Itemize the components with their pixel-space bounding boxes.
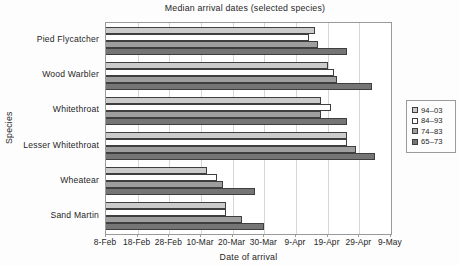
category-label-whitethroat: Whitethroat [0,104,99,114]
bar-whitethroat-84-93 [106,104,331,111]
category-label-lesser-whitethroat: Lesser Whitethroat [0,140,99,150]
gridline [359,23,360,234]
bar-sand-martin-74-83 [106,216,242,223]
bar-wheatear-94-03 [106,167,207,174]
bar-pied-flycatcher-74-83 [106,41,318,48]
gridline [264,23,265,234]
bar-wood-warbler-65-73 [106,83,372,90]
gridline [328,23,329,234]
legend: 94–0384–9374–8365–73 [406,100,456,153]
category-label-pied-flycatcher: Pied Flycatcher [0,34,99,44]
plot-area [105,22,392,235]
bar-whitethroat-94-03 [106,97,321,104]
legend-item-74-83: 74–83 [412,127,455,135]
legend-item-84-93: 84–93 [412,117,455,125]
bar-lesser-whitethroat-94-03 [106,132,347,139]
bar-wood-warbler-94-03 [106,62,328,69]
bar-wheatear-84-93 [106,174,217,181]
gridline [296,23,297,234]
bar-wheatear-74-83 [106,181,223,188]
x-tick-label-9-may: 9-May [368,237,412,247]
bar-pied-flycatcher-65-73 [106,48,347,55]
legend-label-94-03: 94–03 [421,106,443,115]
legend-swatch-84-93 [412,118,418,124]
legend-swatch-94-03 [412,107,418,113]
legend-swatch-74-83 [412,128,418,134]
category-label-wood-warbler: Wood Warbler [0,69,99,79]
bar-wood-warbler-84-93 [106,69,334,76]
bar-sand-martin-94-03 [106,202,226,209]
x-axis-label: Date of arrival [105,252,392,262]
bar-sand-martin-65-73 [106,223,264,230]
bar-pied-flycatcher-94-03 [106,27,315,34]
legend-label-74-83: 74–83 [421,127,443,136]
legend-label-84-93: 84–93 [421,116,443,125]
y-axis-label: Species [4,22,14,233]
bar-lesser-whitethroat-65-73 [106,153,375,160]
bar-wheatear-65-73 [106,188,255,195]
bar-sand-martin-84-93 [106,209,226,216]
bar-whitethroat-65-73 [106,118,347,125]
bar-whitethroat-74-83 [106,111,321,118]
bar-lesser-whitethroat-74-83 [106,146,356,153]
category-label-wheatear: Wheatear [0,175,99,185]
bar-lesser-whitethroat-84-93 [106,139,347,146]
legend-item-94-03: 94–03 [412,106,455,114]
category-label-sand-martin: Sand Martin [0,210,99,220]
legend-label-65-73: 65–73 [421,137,443,146]
legend-swatch-65-73 [412,139,418,145]
legend-item-65-73: 65–73 [412,138,455,146]
chart-title: Median arrival dates (selected species) [100,3,390,13]
gridline [233,23,234,234]
bar-wood-warbler-74-83 [106,76,337,83]
bar-pied-flycatcher-84-93 [106,34,309,41]
chart-figure: Median arrival dates (selected species) … [0,0,459,265]
